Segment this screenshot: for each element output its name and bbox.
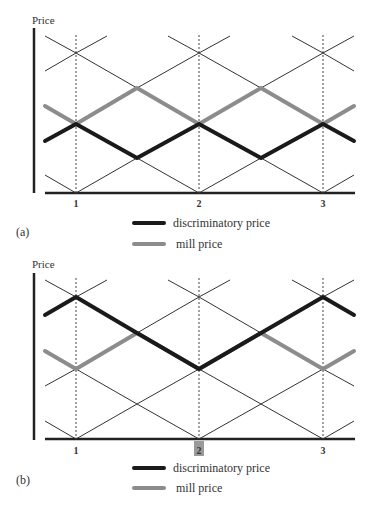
y-axis-label-b: Price	[32, 258, 55, 270]
legend-label-discriminatory-a: discriminatory price	[173, 216, 270, 230]
y-axis-label-a: Price	[32, 14, 55, 26]
x-tick-2-b: 2	[197, 445, 202, 456]
panel-label-a: (a)	[16, 225, 29, 239]
x-tick-1-a: 1	[74, 198, 79, 209]
legend-label-mill-a: mill price	[176, 237, 222, 251]
legend-label-discriminatory-b: discriminatory price	[173, 461, 270, 475]
legend-b: discriminatory price mill price	[134, 461, 270, 495]
figure-canvas: Price 1 2 3 (a) discrimin	[0, 0, 371, 509]
x-tick-2-a: 2	[197, 198, 202, 209]
panel-a: Price 1 2 3 (a) discrimin	[16, 14, 355, 251]
mill-price-curve-a	[45, 88, 354, 124]
panel-label-b: (b)	[16, 473, 30, 487]
legend-label-mill-b: mill price	[176, 481, 222, 495]
panel-b: Price 1 2 3 (b) discrim	[16, 258, 355, 495]
x-tick-1-b: 1	[74, 445, 79, 456]
x-tick-3-b: 3	[321, 445, 326, 456]
x-tick-3-a: 3	[321, 198, 326, 209]
legend-a: discriminatory price mill price	[134, 216, 270, 251]
